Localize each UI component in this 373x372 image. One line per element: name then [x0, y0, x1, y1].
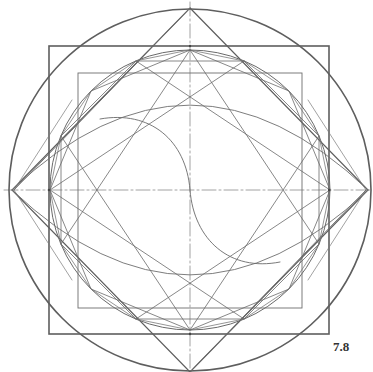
geometric-construction-diagram: [0, 0, 373, 372]
center-axes: [4, 2, 372, 372]
figure-number-label: 7.8: [333, 339, 349, 355]
